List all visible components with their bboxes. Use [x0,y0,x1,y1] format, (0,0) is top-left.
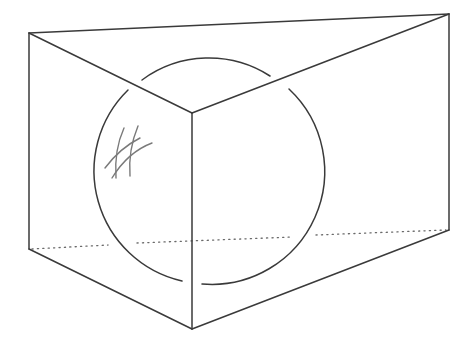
edge-top-left [29,33,192,113]
hatch-mark [105,126,152,178]
prism-sphere-figure [0,0,475,350]
hidden-bottom-edge [32,230,446,249]
inscribed-sphere [94,58,325,284]
diagram-canvas [0,0,475,350]
edge-top-right [192,14,449,113]
edge-bottom-right [192,230,449,329]
edge-top-back [29,14,449,33]
edge-bottom-left [29,249,192,329]
